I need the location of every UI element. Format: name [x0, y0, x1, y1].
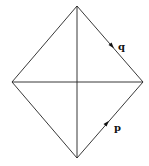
edge-bottom-left: [12, 82, 77, 158]
edge-top-left: [12, 6, 77, 82]
label-q: q: [118, 41, 125, 52]
label-p: p: [114, 122, 121, 133]
rhombus-diagram: q p: [0, 0, 149, 166]
edge-bottom-right: [77, 82, 143, 158]
